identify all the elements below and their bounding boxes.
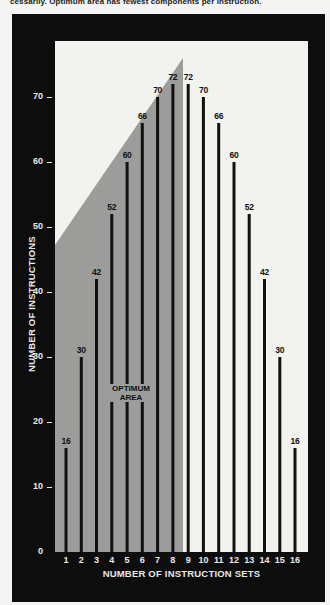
y-tick-mark	[47, 422, 52, 423]
y-tick-mark	[47, 162, 52, 163]
bar	[141, 123, 144, 552]
bar-value-label: 70	[149, 85, 167, 95]
x-tick-label: 1	[58, 555, 74, 565]
x-tick-label: 6	[134, 555, 150, 565]
x-tick-label: 9	[180, 555, 196, 565]
bar	[65, 448, 68, 552]
bar-value-label: 52	[103, 202, 121, 212]
optimum-area-shading	[55, 58, 183, 552]
caption-text: cessarily. Optimum area has fewest compo…	[10, 0, 330, 8]
bar	[187, 84, 190, 552]
bars-svg	[55, 41, 308, 552]
bar-value-label: 52	[240, 202, 258, 212]
bar-value-label: 60	[225, 150, 243, 160]
bar	[294, 448, 297, 552]
y-tick-mark	[47, 487, 52, 488]
bar	[80, 357, 83, 552]
x-axis-title: NUMBER OF INSTRUCTION SETS	[55, 568, 308, 579]
bar-value-label: 72	[179, 72, 197, 82]
x-tick-label: 3	[89, 555, 105, 565]
bar	[95, 279, 98, 552]
x-tick-label: 2	[73, 555, 89, 565]
y-tick-mark	[47, 227, 52, 228]
bar	[248, 214, 251, 552]
y-tick-mark	[47, 97, 52, 98]
y-tick-label: 60	[19, 156, 43, 166]
x-tick-label: 8	[165, 555, 181, 565]
y-tick-mark	[47, 292, 52, 293]
x-tick-label: 12	[226, 555, 242, 565]
plot-area	[55, 41, 308, 552]
bar-value-label: 30	[72, 345, 90, 355]
bar	[278, 357, 281, 552]
bar-value-label: 16	[286, 436, 304, 446]
x-tick-label: 13	[241, 555, 257, 565]
bar-value-label: 60	[118, 150, 136, 160]
y-tick-label: 70	[19, 91, 43, 101]
y-axis-title: NUMBER OF INSTRUCTIONS	[26, 174, 37, 434]
bar-value-label: 66	[133, 111, 151, 121]
y-tick-label: 0	[19, 546, 43, 556]
bar-value-label: 66	[210, 111, 228, 121]
x-tick-label: 10	[195, 555, 211, 565]
x-tick-label: 4	[104, 555, 120, 565]
bar	[171, 84, 174, 552]
y-tick-mark	[47, 357, 52, 358]
x-tick-label: 15	[272, 555, 288, 565]
x-tick-label: 16	[287, 555, 303, 565]
bar	[233, 162, 236, 552]
bar	[110, 214, 113, 552]
bar-value-label: 42	[88, 267, 106, 277]
bar-value-label: 70	[194, 85, 212, 95]
x-tick-label: 14	[257, 555, 273, 565]
bar	[202, 97, 205, 552]
bar	[156, 97, 159, 552]
bar-value-label: 16	[57, 436, 75, 446]
bar	[217, 123, 220, 552]
x-tick-label: 11	[211, 555, 227, 565]
bar	[263, 279, 266, 552]
x-tick-label: 7	[150, 555, 166, 565]
optimum-area-label-text: OPTIMUM AREA	[112, 384, 150, 402]
x-tick-label: 5	[119, 555, 135, 565]
y-tick-label: 10	[19, 481, 43, 491]
bar	[126, 162, 129, 552]
optimum-area-label: OPTIMUM AREA	[108, 384, 154, 402]
bar-value-label: 30	[271, 345, 289, 355]
bar-value-label: 42	[256, 267, 274, 277]
